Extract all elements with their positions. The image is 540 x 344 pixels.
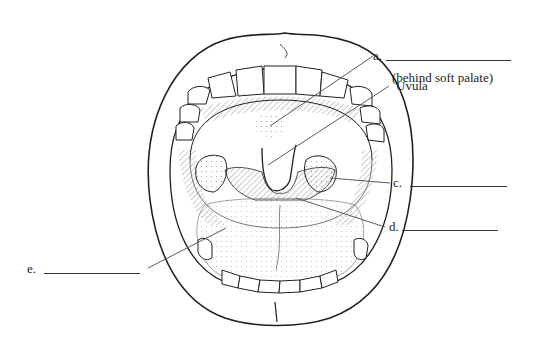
label-a-letter: a. (373, 49, 382, 63)
label-e-letter: e. (27, 262, 36, 276)
label-e-blank[interactable] (44, 273, 140, 274)
label-c-letter: c. (393, 176, 402, 190)
palate-dots (254, 113, 286, 137)
tonsil-left (196, 155, 227, 192)
label-c-blank[interactable] (410, 186, 507, 187)
label-a-blank[interactable] (386, 60, 511, 61)
mouth-diagram: a. (behind soft palate) Uvula c. d. e. (0, 0, 540, 344)
label-d-letter: d. (389, 220, 399, 234)
mouth-illustration (0, 0, 540, 344)
label-uvula: Uvula (396, 79, 428, 93)
uvula (262, 145, 296, 191)
label-d-blank[interactable] (402, 230, 498, 231)
